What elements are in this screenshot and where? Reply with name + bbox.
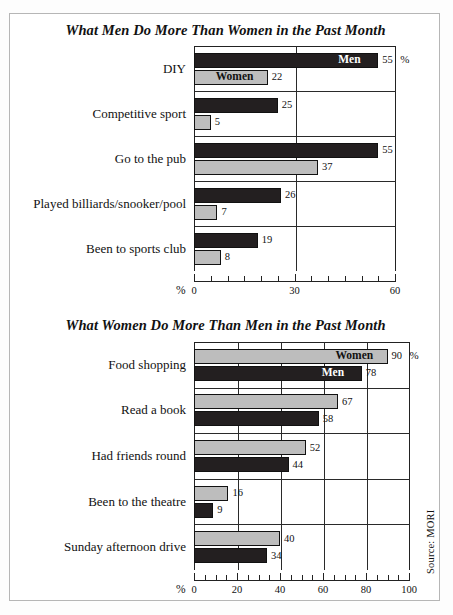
category-label: DIY xyxy=(10,62,186,75)
minor-tick-70 xyxy=(345,575,346,581)
minor-tick-35 xyxy=(311,276,312,282)
bar-value-label: 19 xyxy=(262,235,273,246)
minor-tick-25 xyxy=(278,276,279,282)
x-tick-label: 20 xyxy=(223,585,251,596)
x-tick-label: 60 xyxy=(381,286,409,297)
bar-men-1 xyxy=(194,98,278,113)
bar-value-label: 34 xyxy=(271,551,282,562)
bar-value-label: 40 xyxy=(284,534,295,545)
minor-tick-55 xyxy=(378,276,379,282)
bar-men-1 xyxy=(194,411,319,426)
plot-right-border xyxy=(395,46,396,271)
bar-men-4 xyxy=(194,233,258,248)
percent-symbol: % xyxy=(410,350,419,361)
bar-women-2 xyxy=(194,440,306,455)
figure-frame: What Men Do More Than Women in the Past … xyxy=(9,13,440,601)
minor-tick-55 xyxy=(312,575,313,581)
major-tick-0 xyxy=(194,274,195,282)
bar-value-label: 55 xyxy=(382,55,393,66)
gridline-30 xyxy=(296,46,297,271)
category-label: Had friends round xyxy=(10,449,186,462)
minor-tick-50 xyxy=(362,276,363,282)
group-separator xyxy=(195,226,396,227)
bar-men-2 xyxy=(194,143,378,158)
figure-page: What Men Do More Than Women in the Past … xyxy=(0,0,453,615)
bar-value-label: 52 xyxy=(310,443,321,454)
chart-title-top: What Men Do More Than Women in the Past … xyxy=(10,22,441,39)
bar-value-label: 16 xyxy=(232,488,243,499)
minor-tick-75 xyxy=(355,575,356,581)
bar-women-4 xyxy=(194,250,221,265)
group-separator xyxy=(195,479,410,480)
bar-value-label: 8 xyxy=(225,252,230,263)
category-label: Food shopping xyxy=(10,358,186,371)
minor-tick-50 xyxy=(302,575,303,581)
bar-value-label: 78 xyxy=(366,368,377,379)
minor-tick-45 xyxy=(291,575,292,581)
minor-tick-30 xyxy=(259,575,260,581)
category-label: Go to the pub xyxy=(10,152,186,165)
minor-tick-5 xyxy=(205,575,206,581)
x-tick-label: 30 xyxy=(281,286,309,297)
x-tick-label: 40 xyxy=(266,585,294,596)
bar-men-4 xyxy=(194,548,267,563)
minor-tick-85 xyxy=(377,575,378,581)
minor-tick-45 xyxy=(345,276,346,282)
series-label-women: Women xyxy=(216,71,254,83)
bar-women-3 xyxy=(194,205,217,220)
minor-tick-10 xyxy=(216,575,217,581)
series-label-men: Men xyxy=(338,54,360,66)
category-label: Sunday afternoon drive xyxy=(10,540,186,553)
major-tick-30 xyxy=(295,274,296,282)
bar-men-2 xyxy=(194,457,289,472)
group-separator xyxy=(195,433,410,434)
minor-tick-10 xyxy=(228,276,229,282)
major-tick-40 xyxy=(280,573,281,581)
bar-value-label: 22 xyxy=(272,72,283,83)
minor-tick-95 xyxy=(398,575,399,581)
percent-symbol: % xyxy=(400,54,409,65)
plot-right-border xyxy=(409,342,410,570)
group-separator xyxy=(195,524,410,525)
bar-value-label: 90 xyxy=(392,351,403,362)
minor-tick-5 xyxy=(211,276,212,282)
bar-women-3 xyxy=(194,486,228,501)
major-tick-20 xyxy=(237,573,238,581)
bar-value-label: 7 xyxy=(221,207,226,218)
bar-value-label: 44 xyxy=(293,460,304,471)
x-tick-label: 80 xyxy=(352,585,380,596)
bar-value-label: 5 xyxy=(215,117,220,128)
major-tick-0 xyxy=(194,573,195,581)
category-label: Competitive sport xyxy=(10,107,186,120)
bar-women-4 xyxy=(194,531,280,546)
axis-unit-label: % xyxy=(176,285,186,297)
series-label-women: Women xyxy=(336,350,374,362)
minor-tick-25 xyxy=(248,575,249,581)
major-tick-60 xyxy=(395,274,396,282)
group-separator xyxy=(195,388,410,389)
minor-tick-15 xyxy=(226,575,227,581)
axis-unit-label: % xyxy=(176,584,186,596)
group-separator xyxy=(195,91,396,92)
chart-title-bottom: What Women Do More Than Men in the Past … xyxy=(10,317,441,334)
plot-top-border xyxy=(195,342,410,343)
x-tick-label: 100 xyxy=(395,585,423,596)
category-label: Been to the theatre xyxy=(10,495,186,508)
group-separator xyxy=(195,136,396,137)
minor-tick-15 xyxy=(244,276,245,282)
bar-men-3 xyxy=(194,188,281,203)
minor-tick-40 xyxy=(328,276,329,282)
bar-value-label: 9 xyxy=(217,505,222,516)
x-tick-label: 60 xyxy=(309,585,337,596)
minor-tick-65 xyxy=(334,575,335,581)
source-note: Source: MORI xyxy=(425,509,436,574)
bar-value-label: 58 xyxy=(323,414,334,425)
bar-value-label: 25 xyxy=(282,100,293,111)
minor-tick-35 xyxy=(269,575,270,581)
bar-women-1 xyxy=(194,115,211,130)
major-tick-80 xyxy=(366,573,367,581)
series-label-men: Men xyxy=(322,367,344,379)
bar-value-label: 67 xyxy=(342,397,353,408)
bar-value-label: 55 xyxy=(382,145,393,156)
bar-women-1 xyxy=(194,394,338,409)
